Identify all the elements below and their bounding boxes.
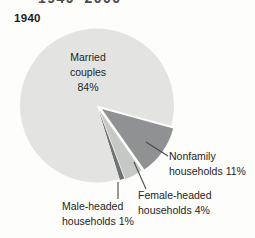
slice-label-nonfamily-households: Nonfamily households 11% [169,149,246,179]
slice-label-married-couples: Married couples 84% [43,50,133,95]
figure-1940-pie-chart: 1940–2000 1940 Married couples 84% Nonfa… [0,0,255,238]
slice-label-female-headed-households: Female-headed households 4% [138,188,212,218]
slice-label-male-headed-households: Male-headed households 1% [62,199,134,229]
